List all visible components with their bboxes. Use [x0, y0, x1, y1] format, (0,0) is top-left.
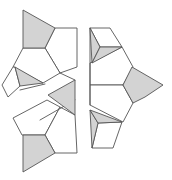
diagram-canvas [0, 0, 172, 180]
polyhedron-net-diagram [0, 0, 172, 180]
